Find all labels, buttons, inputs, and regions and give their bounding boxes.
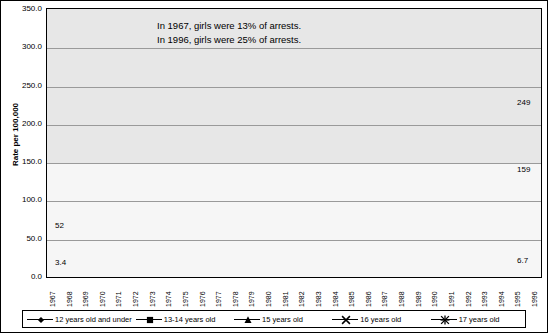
y-tick-label: 100.0 [8, 196, 42, 204]
x-tick-label: 1972 [132, 291, 139, 307]
point-value-label: 249 [517, 98, 530, 107]
x-tick-label: 1985 [348, 291, 355, 307]
x-tick-label: 1975 [182, 291, 189, 307]
x-tick-label: 1978 [232, 291, 239, 307]
y-tick-label: 200.0 [8, 120, 42, 128]
legend-item-3[interactable]: 15 years old [230, 314, 328, 324]
gridline [47, 163, 541, 164]
annotation-line-2: In 1996, girls were 25% of arrests. [157, 33, 301, 47]
annotation-line-1: In 1967, girls were 13% of arrests. [157, 19, 301, 33]
y-tick-label: 350.0 [8, 5, 42, 13]
y-tick-label: 300.0 [8, 43, 42, 51]
x-tick-label: 1981 [282, 291, 289, 307]
gridline [47, 125, 541, 126]
y-tick-label: 50.0 [8, 235, 42, 243]
legend-label: 16 years old [360, 315, 401, 324]
x-tick-label: 1969 [82, 291, 89, 307]
legend-label: 12 years old and under [55, 315, 132, 324]
legend-item-2[interactable]: 13-14 years old [132, 314, 230, 324]
square-icon [136, 314, 162, 324]
x-tick-label: 1986 [365, 291, 372, 307]
x-tick-label: 1973 [149, 291, 156, 307]
y-axis-tick-labels: 0.050.0100.0150.0200.0250.0300.0350.0 [4, 0, 42, 333]
chart-legend: 12 years old and under13-14 years old15 … [22, 310, 526, 328]
triangle-icon [234, 314, 260, 324]
gridline [47, 48, 541, 49]
x-tick-label: 1996 [531, 291, 538, 307]
point-value-label: 6.7 [517, 256, 528, 265]
x-tick-label: 1974 [165, 291, 172, 307]
gridline [47, 240, 541, 241]
legend-label: 17 years old [459, 315, 500, 324]
y-tick-label: 250.0 [8, 82, 42, 90]
point-value-label: 159 [517, 165, 530, 174]
y-tick-label: 0.0 [8, 273, 42, 281]
x-tick-label: 1976 [199, 291, 206, 307]
diamond-icon [27, 314, 53, 324]
plot-background-lower [47, 164, 541, 277]
asterisk-icon [431, 314, 457, 324]
x-tick-label: 1993 [481, 291, 488, 307]
point-value-label: 3.4 [55, 258, 66, 267]
gridline [47, 87, 541, 88]
x-tick-label: 1980 [265, 291, 272, 307]
x-tick-label: 1983 [315, 291, 322, 307]
x-tick-label: 1967 [49, 291, 56, 307]
y-tick-label: 150.0 [8, 158, 42, 166]
x-tick-label: 1988 [398, 291, 405, 307]
x-tick-label: 1995 [514, 291, 521, 307]
chart-annotation: In 1967, girls were 13% of arrests. In 1… [157, 19, 301, 47]
cross-icon [332, 314, 358, 324]
legend-item-1[interactable]: 12 years old and under [23, 314, 132, 324]
x-tick-label: 1987 [381, 291, 388, 307]
x-tick-label: 1971 [115, 291, 122, 307]
point-value-label: 52 [55, 221, 64, 230]
gridline [47, 201, 541, 202]
x-tick-label: 1992 [465, 291, 472, 307]
x-tick-label: 1990 [431, 291, 438, 307]
chart-root: Rate per 100,000 0.050.0100.0150.0200.02… [0, 0, 548, 333]
legend-label: 13-14 years old [164, 315, 216, 324]
legend-label: 15 years old [262, 315, 303, 324]
x-tick-label: 1979 [248, 291, 255, 307]
plot-area: In 1967, girls were 13% of arrests. In 1… [46, 8, 542, 278]
legend-item-5[interactable]: 17 years old [427, 314, 525, 324]
x-tick-label: 1982 [298, 291, 305, 307]
x-tick-label: 1968 [66, 291, 73, 307]
x-tick-label: 1984 [332, 291, 339, 307]
x-tick-label: 1970 [99, 291, 106, 307]
legend-item-4[interactable]: 16 years old [328, 314, 426, 324]
x-tick-label: 1994 [498, 291, 505, 307]
x-tick-label: 1991 [448, 291, 455, 307]
x-tick-label: 1989 [415, 291, 422, 307]
x-axis-tick-labels: 1967196819691970197119721973197419751976… [46, 279, 542, 307]
x-tick-label: 1977 [215, 291, 222, 307]
